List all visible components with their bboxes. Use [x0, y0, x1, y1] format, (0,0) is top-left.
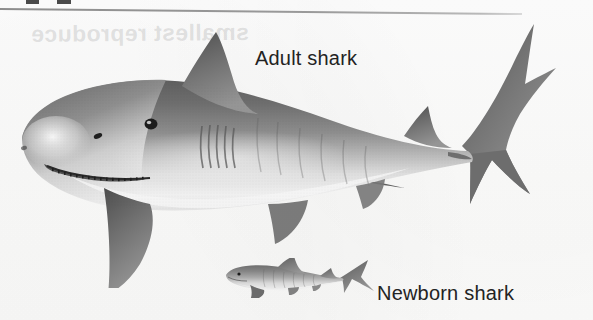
caudal-fin [340, 260, 374, 293]
caudal-fin [462, 24, 556, 204]
eye [237, 272, 240, 275]
page-edge-ink-fragment [57, 0, 71, 4]
second-dorsal-fin [404, 106, 452, 148]
adult-shark-label: Adult shark [255, 48, 357, 68]
top-horizontal-rule [0, 8, 522, 15]
shark-size-comparison-figure: smallest reproduce [0, 0, 593, 320]
newborn-shark-label: Newborn shark [377, 283, 514, 303]
pelvic-fin [268, 200, 308, 244]
page-edge-ink-fragment [26, 0, 39, 4]
pelvic-fin [288, 287, 299, 295]
second-dorsal-fin [320, 268, 340, 278]
newborn-shark-illustration [220, 258, 382, 298]
